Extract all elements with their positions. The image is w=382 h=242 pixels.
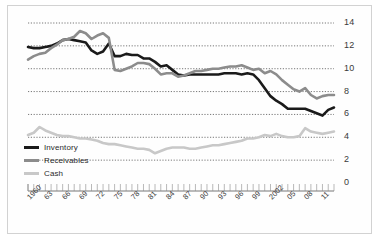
legend-label: Cash bbox=[44, 169, 63, 178]
chart-plot-area bbox=[0, 0, 382, 242]
legend-swatch-icon bbox=[24, 146, 39, 149]
y-axis-tick-label: 0 bbox=[344, 177, 349, 187]
chart-figure: 02468101214 1960636669727578818487909396… bbox=[0, 0, 382, 242]
legend-item-inventory[interactable]: Inventory bbox=[24, 143, 78, 152]
gridlines-group bbox=[28, 23, 334, 160]
legend-item-receivables[interactable]: Receivables bbox=[24, 156, 89, 165]
y-axis-tick-label: 4 bbox=[344, 131, 349, 141]
legend-swatch-icon bbox=[24, 159, 39, 162]
legend-item-cash[interactable]: Cash bbox=[24, 169, 63, 178]
y-axis-tick-label: 6 bbox=[344, 108, 349, 118]
data-series-group bbox=[28, 31, 334, 153]
legend-swatch-icon bbox=[24, 172, 39, 175]
y-axis-tick-label: 10 bbox=[344, 63, 354, 73]
y-axis-tick-label: 14 bbox=[344, 17, 354, 27]
y-axis-tick-label: 2 bbox=[344, 154, 349, 164]
legend-label: Inventory bbox=[44, 143, 78, 152]
legend-label: Receivables bbox=[44, 156, 89, 165]
y-axis-tick-label: 12 bbox=[344, 40, 354, 50]
y-axis-tick-label: 8 bbox=[344, 86, 349, 96]
